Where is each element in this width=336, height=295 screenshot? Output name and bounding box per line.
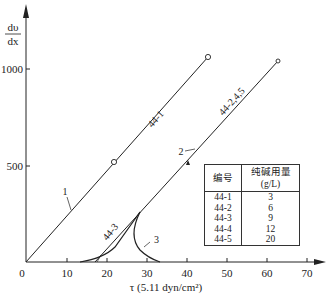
svg-text:0: 0: [19, 267, 25, 279]
svg-text:60: 60: [262, 267, 274, 279]
svg-text:500: 500: [7, 160, 24, 172]
series-44-3: [80, 212, 160, 262]
legend-row: 44-26: [205, 203, 299, 214]
legend-header-id: 编号: [205, 165, 242, 192]
x-axis-label: τ (5.11 dyn/cm²): [130, 281, 203, 294]
y-tick-labels: 1000 500: [1, 63, 24, 172]
legend-row: 44-13: [205, 192, 299, 203]
legend-row: 44-412: [205, 224, 299, 235]
svg-text:30: 30: [142, 267, 154, 279]
chart-canvas: 0 10 20 30 40 50 60 70 τ (5.11 dyn/cm²) …: [0, 0, 336, 295]
y-axis-arrow-icon: [23, 4, 29, 18]
svg-text:dυ: dυ: [8, 21, 20, 33]
legend-header-amount: 纯碱用量 (g/L): [242, 165, 300, 192]
curve-label-3: 3: [154, 234, 159, 245]
curve-label-2: 2: [179, 146, 184, 157]
svg-text:70: 70: [302, 267, 314, 279]
x-ticks: [67, 258, 307, 262]
svg-text:1000: 1000: [1, 63, 24, 75]
line-annotation-44-3: 44-3: [100, 221, 120, 242]
curve-3-leader: [144, 242, 150, 247]
series-44-1: 44-1 1: [26, 54, 211, 262]
y-axis-label: dυ dx: [5, 21, 21, 47]
x-axis-arrow-icon: [314, 259, 326, 265]
svg-text:50: 50: [222, 267, 234, 279]
svg-text:dx: dx: [8, 35, 20, 47]
circle-marker-icon: [205, 54, 210, 59]
line-annotation-44-1: 44-1: [145, 108, 165, 129]
x-tick-labels: 0 10 20 30 40 50 60 70: [19, 267, 313, 279]
circle-marker-icon: [276, 59, 280, 63]
svg-text:20: 20: [102, 267, 114, 279]
circle-marker-icon: [111, 159, 116, 164]
svg-text:40: 40: [182, 267, 194, 279]
curve-label-1: 1: [63, 186, 68, 197]
legend-row: 44-39: [205, 213, 299, 224]
y-ticks: [26, 69, 30, 166]
legend-table: 编号 纯碱用量 (g/L) 44-13 44-26 44-39 44-412 4…: [204, 164, 300, 246]
svg-text:10: 10: [62, 267, 74, 279]
legend-row: 44-520: [205, 234, 299, 245]
